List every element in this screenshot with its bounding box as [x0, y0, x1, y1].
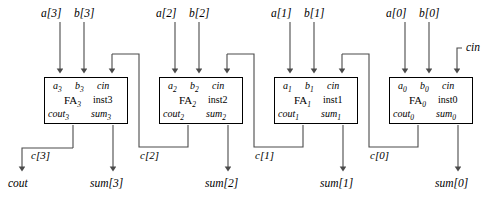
wire-cout0-to-carry: [391, 125, 418, 147]
input-label-b0: b[0]: [419, 8, 439, 20]
fa0-pin-cout: cout0: [393, 109, 414, 122]
carry-label-c1: c[1]: [255, 150, 274, 161]
fa1-pin-a: a1: [283, 81, 292, 94]
fa0-output-pin-row: cout0 sum0: [390, 109, 472, 121]
fa2-pin-cin: cin: [212, 81, 224, 91]
full-adder-block-2[interactable]: a2 b2 cin FA2 inst2 cout2 sum2: [159, 77, 243, 124]
fa0-instance-name: inst0: [438, 95, 457, 105]
fa3-name-row: FA3 inst3: [45, 95, 127, 108]
input-label-a2: a[2]: [156, 8, 176, 20]
fa0-pin-sum: sum0: [436, 109, 456, 122]
carry-label-c3: c[3]: [31, 150, 50, 161]
fa2-pin-sum: sum2: [206, 109, 226, 122]
fa1-instance-name: inst1: [323, 95, 342, 105]
input-label-b3: b[3]: [74, 8, 94, 20]
fa1-name-row: FA1 inst1: [275, 95, 357, 108]
fa0-pin-a: a0: [398, 81, 407, 94]
carry-label-c2: c[2]: [140, 150, 159, 161]
fa3-block-name: FA3: [64, 95, 81, 109]
input-label-a3: a[3]: [41, 8, 61, 20]
full-adder-block-1[interactable]: a1 b1 cin FA1 inst1 cout1 sum1: [274, 77, 358, 124]
fa0-input-pin-row: a0 b0 cin: [390, 81, 472, 93]
output-label-cout: cout: [8, 178, 28, 190]
fa1-pin-cout: cout1: [278, 109, 299, 122]
fa1-pin-cin: cin: [327, 81, 339, 91]
fa2-pin-a: a2: [168, 81, 177, 94]
fa0-name-row: FA0 inst0: [390, 95, 472, 108]
wire-cout2-to-carry: [161, 125, 188, 147]
fa3-output-pin-row: cout3 sum3: [45, 109, 127, 121]
output-label-sum1: sum[1]: [320, 178, 353, 190]
fa2-output-pin-row: cout2 sum2: [160, 109, 242, 121]
ripple-carry-adder-diagram: a[3] b[3] a3 b3 cin FA3 inst3 cout3 sum3…: [0, 0, 495, 204]
output-label-sum3: sum[3]: [90, 178, 123, 190]
input-label-a0: a[0]: [386, 8, 406, 20]
fa3-pin-b: b3: [75, 81, 84, 94]
wire-external-cin-to-cin0: [457, 48, 462, 72]
fa2-instance-name: inst2: [208, 95, 227, 105]
fa1-output-pin-row: cout1 sum1: [275, 109, 357, 121]
fa3-pin-sum: sum3: [91, 109, 111, 122]
fa2-pin-b: b2: [190, 81, 199, 94]
full-adder-block-3[interactable]: a3 b3 cin FA3 inst3 cout3 sum3: [44, 77, 128, 124]
wire-cout1-to-carry: [276, 125, 303, 147]
carry-label-c0: c[0]: [370, 150, 389, 161]
fa3-input-pin-row: a3 b3 cin: [45, 81, 127, 93]
fa3-instance-name: inst3: [93, 95, 112, 105]
fa1-pin-sum: sum1: [321, 109, 341, 122]
output-label-sum0: sum[0]: [435, 178, 468, 190]
fa3-pin-cout: cout3: [48, 109, 69, 122]
fa1-pin-b: b1: [305, 81, 314, 94]
output-label-sum2: sum[2]: [205, 178, 238, 190]
fa2-pin-cout: cout2: [163, 109, 184, 122]
fa0-block-name: FA0: [409, 95, 426, 109]
fa2-input-pin-row: a2 b2 cin: [160, 81, 242, 93]
input-label-cin: cin: [466, 42, 480, 54]
fa2-name-row: FA2 inst2: [160, 95, 242, 108]
fa2-block-name: FA2: [179, 95, 196, 109]
fa1-block-name: FA1: [294, 95, 311, 109]
fa0-pin-cin: cin: [442, 81, 454, 91]
input-label-b2: b[2]: [189, 8, 209, 20]
fa1-input-pin-row: a1 b1 cin: [275, 81, 357, 93]
fa3-pin-cin: cin: [97, 81, 109, 91]
full-adder-block-0[interactable]: a0 b0 cin FA0 inst0 cout0 sum0: [389, 77, 473, 124]
fa0-pin-b: b0: [420, 81, 429, 94]
input-label-b1: b[1]: [304, 8, 324, 20]
input-label-a1: a[1]: [271, 8, 291, 20]
fa3-pin-a: a3: [53, 81, 62, 94]
